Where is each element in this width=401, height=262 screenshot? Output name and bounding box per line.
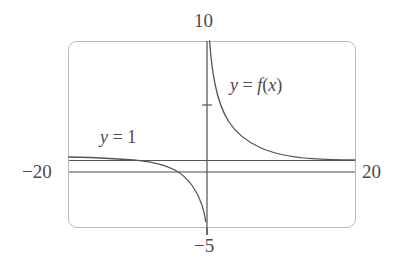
y-axis-min-label: −5 — [194, 236, 214, 255]
graph-figure: 10 −20 20 −5 y = f(x) y = 1 — [0, 0, 401, 262]
plot-canvas — [0, 0, 401, 262]
function-label-x: x — [268, 75, 276, 95]
function-label-equals: = — [243, 75, 253, 95]
asymptote-label-value: 1 — [127, 127, 136, 147]
curve-right-branch — [210, 41, 355, 160]
x-axis-min-label: −20 — [22, 162, 52, 181]
asymptote-label: y = 1 — [100, 128, 136, 146]
function-label-y: y — [230, 75, 238, 95]
function-curve-label: y = f(x) — [230, 76, 282, 94]
curve-left-branch — [69, 157, 206, 222]
function-label-paren-close: ) — [276, 75, 282, 95]
x-axis-max-label: 20 — [362, 162, 381, 181]
asymptote-label-y: y — [100, 127, 108, 147]
y-axis-max-label: 10 — [194, 11, 213, 30]
asymptote-label-equals: = — [113, 127, 123, 147]
